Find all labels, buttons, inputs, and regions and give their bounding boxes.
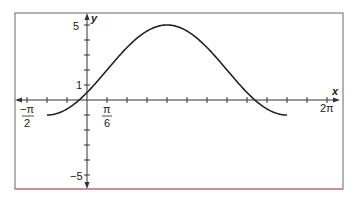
y-tick-label-5: 5 <box>73 20 79 32</box>
y-tick-label-1: 1 <box>76 79 82 91</box>
y-tick-label-neg-5: −5 <box>70 170 83 182</box>
chart: x y −π 2 π 6 2π 5 1 −5 <box>0 0 354 203</box>
svg-text:−π: −π <box>20 103 34 115</box>
plot-frame <box>15 13 343 189</box>
x-axis-label: x <box>331 85 339 97</box>
x-tick-label-2pi: 2π <box>320 102 334 114</box>
svg-text:6: 6 <box>104 117 110 129</box>
svg-text:π: π <box>103 103 111 115</box>
y-axis-label: y <box>90 12 98 24</box>
svg-text:2: 2 <box>24 117 30 129</box>
